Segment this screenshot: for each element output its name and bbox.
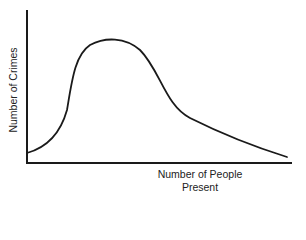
crime-curve bbox=[27, 40, 287, 157]
x-axis-label: Number of People Present bbox=[100, 168, 300, 194]
x-axis-label-line-2: Present bbox=[100, 181, 300, 194]
y-axis-label-text: Number of Crimes bbox=[7, 47, 19, 132]
x-axis-label-line-1: Number of People bbox=[100, 168, 300, 181]
